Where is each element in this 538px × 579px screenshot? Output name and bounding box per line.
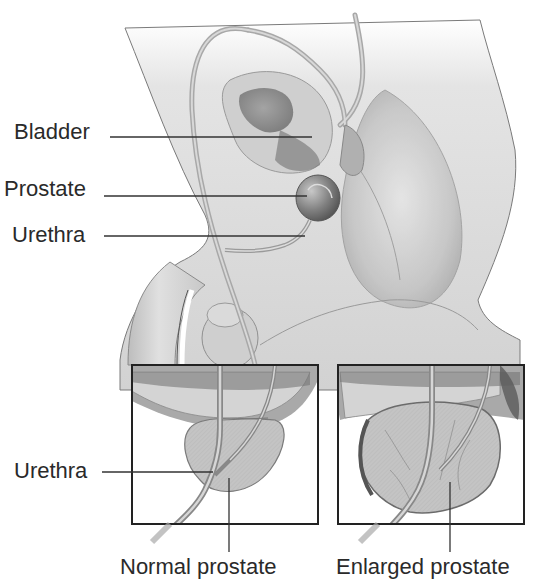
label-normal-prostate: Normal prostate	[120, 556, 277, 578]
label-bladder: Bladder	[14, 121, 90, 143]
prostate-organ	[296, 175, 340, 221]
label-enlarged-prostate: Enlarged prostate	[336, 556, 510, 578]
label-prostate: Prostate	[4, 178, 86, 200]
label-urethra-top: Urethra	[12, 224, 85, 246]
label-urethra-inset: Urethra	[14, 460, 87, 482]
